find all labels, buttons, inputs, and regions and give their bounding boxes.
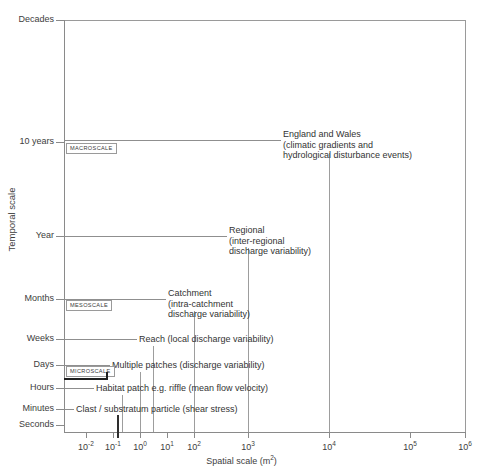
y-tick-label-text: Seconds <box>0 420 54 429</box>
x-tick-mantissa: 10 <box>105 442 115 452</box>
annotation-reach: Reach (local discharge variability) <box>139 334 274 345</box>
annotation-line: Catchment <box>168 288 250 299</box>
x-tick-mantissa: 10 <box>241 442 251 452</box>
x-tick-exponent: -1 <box>115 440 121 447</box>
connector-hline-england_wales <box>64 140 281 141</box>
y-tick-mark <box>56 236 64 237</box>
y-tick-label-year: Year <box>0 231 54 240</box>
x-tick-mark <box>86 432 87 438</box>
x-tick-mark <box>167 432 168 438</box>
x-tick-label-1e5: 105 <box>403 440 417 452</box>
x-tick-mark <box>194 432 195 438</box>
annotation-catchment: Catchment(intra-catchmentdischarge varia… <box>168 288 250 320</box>
connector-hline-habitat_patch <box>64 388 94 389</box>
annotation-line: (inter-regional <box>229 236 311 247</box>
annotation-habitat_patch: Habitat patch e.g. riffle (mean flow vel… <box>96 383 268 394</box>
y-tick-label-10-years: 10 years <box>0 137 54 146</box>
x-tick-label-1e-2: 10-2 <box>78 440 94 452</box>
y-tick-label-seconds: Seconds <box>0 420 54 429</box>
x-tick-label-1e6: 106 <box>458 440 472 452</box>
y-tick-label-weeks: Weeks <box>0 334 54 343</box>
connector-hline-clast <box>64 409 74 410</box>
microscale-bracket-bar <box>64 378 106 380</box>
x-tick-mark <box>113 432 114 438</box>
y-tick-label-text: Year <box>0 231 54 240</box>
annotation-line: Clast / substratum particle (shear stres… <box>76 404 238 415</box>
y-tick-label-minutes: Minutes <box>0 404 54 413</box>
x-axis-title: Spatial scale (m2) <box>0 454 483 466</box>
x-tick-label-1e3: 103 <box>241 440 255 452</box>
x-tick-mantissa: 10 <box>133 442 143 452</box>
microscale-bracket-stub <box>106 372 108 380</box>
y-tick-mark <box>56 299 64 300</box>
y-tick-label-text: Weeks <box>0 334 54 343</box>
connector-hline-reach <box>64 339 137 340</box>
y-tick-mark <box>56 409 64 410</box>
x-tick-mark <box>248 432 249 438</box>
scale-box-mesoscale: MESOSCALE <box>66 300 112 311</box>
x-tick-mark <box>140 432 141 438</box>
annotation-line: discharge variability) <box>229 246 311 257</box>
x-tick-exponent: 5 <box>413 440 417 447</box>
x-tick-exponent: 4 <box>332 440 336 447</box>
x-tick-exponent: 6 <box>468 440 472 447</box>
x-axis-line <box>64 432 465 433</box>
x-tick-label-1e2: 102 <box>187 440 201 452</box>
y-tick-mark <box>56 425 64 426</box>
y-tick-mark <box>56 365 64 366</box>
y-tick-label-text: Minutes <box>0 404 54 413</box>
figure-root: Temporal scale Decades10 yearsYearMonths… <box>0 0 483 476</box>
x-tick-mantissa: 10 <box>403 442 413 452</box>
x-tick-exponent: 0 <box>143 440 147 447</box>
annotation-line: (intra-catchment <box>168 299 250 310</box>
plot-frame-top <box>64 20 465 21</box>
x-tick-mantissa: 10 <box>322 442 332 452</box>
y-tick-mark <box>56 142 64 143</box>
x-tick-mantissa: 10 <box>187 442 197 452</box>
y-tick-label-months: Months <box>0 294 54 303</box>
y-tick-label-text: Hours <box>0 383 54 392</box>
x-tick-label-1e1: 101 <box>160 440 174 452</box>
y-tick-label-days: Days <box>0 360 54 369</box>
y-tick-mark <box>56 20 64 21</box>
y-tick-label-text: Days <box>0 360 54 369</box>
x-tick-mark <box>329 432 330 438</box>
annotation-line: Reach (local discharge variability) <box>139 334 274 345</box>
annotation-england_wales: England and Wales(climatic gradients and… <box>283 129 412 161</box>
annotation-line: (climatic gradients and <box>283 140 412 151</box>
connector-vline-england_wales <box>329 153 330 432</box>
x-tick-exponent: 3 <box>251 440 255 447</box>
y-axis-title: Temporal scale <box>6 180 17 260</box>
y-tick-mark <box>56 388 64 389</box>
annotation-line: Regional <box>229 225 311 236</box>
annotation-line: discharge variability) <box>168 309 250 320</box>
annotation-clast: Clast / substratum particle (shear stres… <box>76 404 238 415</box>
y-tick-label-text: 10 years <box>0 137 54 146</box>
x-tick-mantissa: 10 <box>160 442 170 452</box>
x-tick-exponent: 1 <box>170 440 174 447</box>
x-tick-label-1e0: 100 <box>133 440 147 452</box>
annotation-line: Multiple patches (discharge variability) <box>112 360 265 371</box>
x-tick-exponent: -2 <box>88 440 94 447</box>
highlight-vline-clast <box>117 415 119 438</box>
plot-frame-right <box>465 20 466 432</box>
x-tick-label-1e-1: 10-1 <box>105 440 121 452</box>
y-tick-label-text: Months <box>0 294 54 303</box>
y-tick-label-hours: Hours <box>0 383 54 392</box>
x-tick-mark <box>410 432 411 438</box>
connector-hline-regional <box>64 236 227 237</box>
annotation-line: Habitat patch e.g. riffle (mean flow vel… <box>96 383 268 394</box>
y-tick-label-decades: Decades <box>0 15 54 24</box>
scale-box-macroscale: MACROSCALE <box>66 143 117 154</box>
annotation-line: hydrological disturbance events) <box>283 150 412 161</box>
x-tick-mantissa: 10 <box>78 442 88 452</box>
y-axis-line <box>64 20 65 432</box>
y-tick-label-text: Decades <box>0 15 54 24</box>
x-tick-label-1e4: 104 <box>322 440 336 452</box>
x-tick-exponent: 2 <box>197 440 201 447</box>
annotation-regional: Regional(inter-regionaldischarge variabi… <box>229 225 311 257</box>
x-tick-mantissa: 10 <box>458 442 468 452</box>
annotation-line: England and Wales <box>283 129 412 140</box>
x-tick-mark <box>465 432 466 438</box>
annotation-multiple_patches: Multiple patches (discharge variability) <box>112 360 265 371</box>
